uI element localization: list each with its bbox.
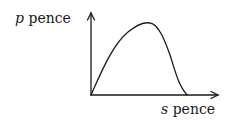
graph [0,0,230,128]
curve [91,23,187,95]
